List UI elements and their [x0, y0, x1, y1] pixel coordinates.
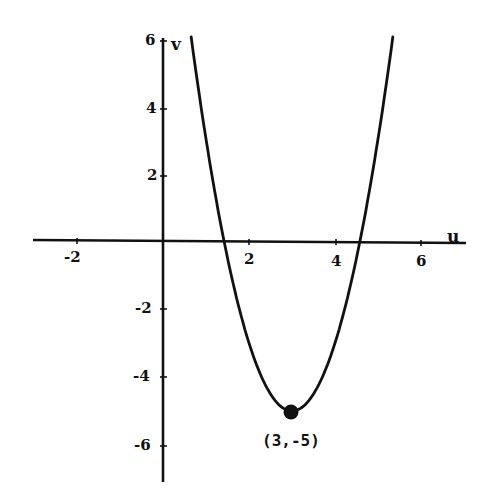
y-axis-label: v	[170, 34, 182, 54]
x-tick-label: 2	[244, 250, 254, 268]
x-axis-label: u	[447, 226, 459, 246]
x-tick-label: 4	[331, 252, 341, 270]
y-tick-label: 2	[147, 166, 157, 184]
vertex-label: (3,-5)	[262, 431, 320, 450]
vertex-point	[284, 405, 299, 420]
x-tick-label: 6	[416, 252, 426, 270]
y-tick-label: -4	[133, 367, 150, 385]
parabola-curve	[191, 37, 393, 411]
y-tick-label: -6	[134, 436, 151, 454]
y-tick-label: 4	[146, 99, 156, 117]
y-tick-label: -2	[135, 299, 152, 317]
x-tick-label: -2	[64, 248, 81, 266]
y-tick-label: 6	[145, 31, 155, 49]
parabola-chart: -2 2 4 6 6 4 2 -2 -4 -6 v u (3,-5)	[0, 0, 498, 504]
